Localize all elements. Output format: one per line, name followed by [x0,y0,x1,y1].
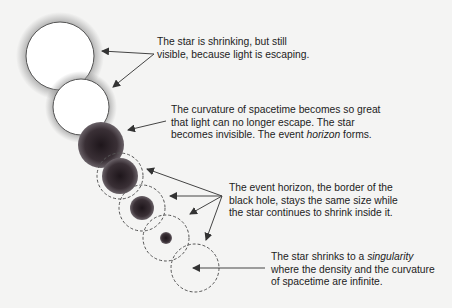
star-body [130,196,154,220]
arrow-to-stage-3 [128,121,166,130]
star-body [160,232,172,244]
arrow-to-stage-6 [190,196,222,214]
caption-line: that light can no longer escape. The sta… [171,117,380,130]
caption-line: visible, because light is escaping. [157,49,309,62]
caption-line: black hole, stays the same size while [229,195,398,208]
caption-line: The star is shrinking, but still [157,36,309,49]
caption-emphasis: horizon [306,129,340,140]
caption-line: becomes invisible. The event horizon for… [171,129,380,142]
caption-text: The star shrinks to a [271,251,367,262]
star-body [102,158,138,194]
caption-shrinking: The star is shrinking, but still visible… [157,36,309,61]
caption-emphasis: singularity [367,251,413,262]
arrow-to-stage-7-horizon [206,196,222,240]
caption-line: The curvature of spacetime becomes so gr… [171,104,380,117]
caption-line: The star shrinks to a singularity [271,251,435,264]
arrow-to-stage-1 [102,51,154,54]
caption-horizon: The event horizon, the border of the bla… [229,182,398,220]
caption-line: the star continues to shrink inside it. [229,207,398,220]
caption-line: of spacetime are infinite. [271,276,435,289]
caption-line: where the density and the curvature [271,264,435,277]
caption-curvature: The curvature of spacetime becomes so gr… [171,104,380,142]
caption-text: becomes invisible. The event [171,129,306,140]
arrow-to-stage-2 [113,54,154,87]
stage-6-horizon [143,215,189,261]
caption-singularity: The star shrinks to a singularity where … [271,251,435,289]
caption-line: The event horizon, the border of the [229,182,398,195]
caption-text: forms. [340,129,371,140]
